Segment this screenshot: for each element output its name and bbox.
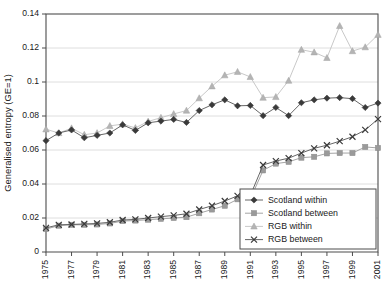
data-point-diamond <box>311 97 317 103</box>
data-point-triangle <box>375 31 381 37</box>
legend-label-rgb-between: RGB between <box>268 234 323 244</box>
data-point-diamond <box>171 116 177 122</box>
data-point-diamond <box>324 95 330 101</box>
x-tick-label: 1975 <box>40 260 50 279</box>
data-point-triangle <box>298 46 304 52</box>
data-point-triangle <box>43 126 49 132</box>
y-tick-label: 0.04 <box>22 178 39 188</box>
data-point-square <box>350 150 355 155</box>
legend-label-rgb-within: RGB within <box>268 221 312 231</box>
x-tick-label: 1999 <box>347 260 357 279</box>
data-point-square <box>337 150 342 155</box>
legend-label-scotland-within: Scotland within <box>268 195 327 205</box>
x-tick-label: 1985 <box>168 260 178 279</box>
data-point-diamond <box>68 127 74 133</box>
data-point-diamond <box>43 138 49 144</box>
y-tick-label: 0.06 <box>22 144 39 154</box>
legend-label-scotland-between: Scotland between <box>268 208 338 218</box>
chart-container: 00.020.040.060.080.10.120.14197519771979… <box>0 0 390 290</box>
data-point-square <box>324 151 329 156</box>
data-point-square <box>222 203 227 208</box>
y-axis-title: Generalised entropy (GE=1) <box>2 74 13 192</box>
x-tick-label: 1979 <box>91 260 101 279</box>
data-point-diamond <box>349 96 355 102</box>
data-point-diamond <box>337 95 343 101</box>
data-point-triangle <box>285 77 291 83</box>
data-point-square <box>299 155 304 160</box>
x-tick-label: 1989 <box>219 260 229 279</box>
data-point-diamond <box>362 104 368 110</box>
x-tick-label: 1981 <box>117 260 127 279</box>
data-point-diamond <box>234 103 240 109</box>
data-point-cross <box>362 127 368 133</box>
data-point-triangle <box>234 68 240 74</box>
data-point-square <box>82 222 87 227</box>
data-point-diamond <box>209 102 215 108</box>
data-point-cross <box>260 162 266 168</box>
x-tick-label: 1987 <box>193 260 203 279</box>
y-tick-label: 0.1 <box>27 76 39 86</box>
x-tick-label: 1993 <box>270 260 280 279</box>
data-point-square <box>251 211 256 216</box>
y-tick-label: 0 <box>34 246 39 256</box>
data-point-triangle <box>324 54 330 60</box>
y-tick-label: 0.12 <box>22 42 39 52</box>
data-point-diamond <box>375 100 381 106</box>
data-point-triangle <box>336 23 342 29</box>
line-chart: 00.020.040.060.080.10.120.14197519771979… <box>0 0 390 290</box>
data-point-square <box>363 144 368 149</box>
data-point-cross <box>349 134 355 140</box>
data-point-diamond <box>273 104 279 110</box>
data-point-square <box>312 154 317 159</box>
data-point-cross <box>311 145 317 151</box>
x-tick-label: 1983 <box>142 260 152 279</box>
y-tick-label: 0.02 <box>22 212 39 222</box>
data-point-cross <box>324 142 330 148</box>
data-point-diamond <box>222 97 228 103</box>
series-line-rgb-within <box>46 26 378 135</box>
y-tick-label: 0.14 <box>22 8 39 18</box>
data-point-cross <box>337 138 343 144</box>
x-tick-label: 1977 <box>66 260 76 279</box>
x-tick-label: 1991 <box>245 260 255 279</box>
x-tick-label: 1995 <box>296 260 306 279</box>
data-point-square <box>375 145 380 150</box>
y-tick-label: 0.08 <box>22 110 39 120</box>
data-point-diamond <box>107 130 113 136</box>
data-point-triangle <box>247 74 253 80</box>
x-tick-label: 1997 <box>321 260 331 279</box>
x-tick-label: 2001 <box>372 260 382 279</box>
